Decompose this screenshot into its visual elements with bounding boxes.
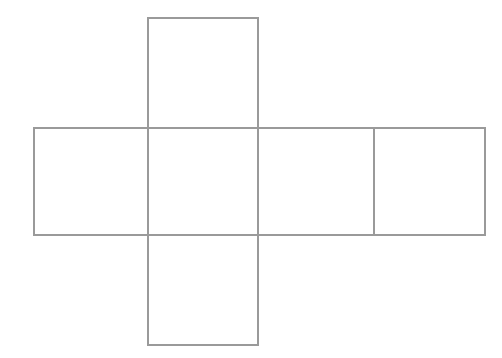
cube-face-right-2: [373, 127, 486, 236]
cube-face-left: [33, 127, 149, 236]
cube-face-top: [147, 17, 259, 129]
cube-face-center: [147, 127, 259, 236]
cube-face-right-1: [257, 127, 375, 236]
cube-face-bottom: [147, 234, 259, 346]
